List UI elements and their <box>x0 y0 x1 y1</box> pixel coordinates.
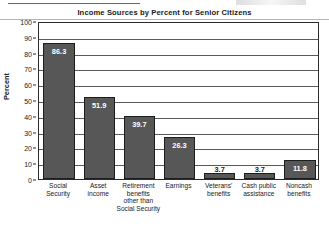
y-tick-mark <box>33 116 36 117</box>
x-axis-category-labels: SocialSecurityAssetincomeRetirementbenef… <box>38 182 319 232</box>
y-tick-mark <box>33 37 36 38</box>
y-axis-tick-labels: 1009080706050403020100 <box>10 22 36 180</box>
chart-title: Income Sources by Percent for Senior Cit… <box>0 8 329 17</box>
x-category-line: benefits <box>275 190 323 198</box>
y-tick-label: 70 <box>24 66 32 73</box>
y-tick-mark <box>33 148 36 149</box>
y-tick-label: 90 <box>24 34 32 41</box>
x-category-label: Noncashbenefits <box>275 182 323 197</box>
y-tick-mark <box>33 22 36 23</box>
y-tick-mark <box>33 180 36 181</box>
gridline <box>39 70 318 71</box>
scan-artifact-line <box>8 3 140 4</box>
scan-artifact-rule <box>0 19 329 20</box>
y-tick-mark <box>33 85 36 86</box>
bar-chart-figure: Income Sources by Percent for Senior Cit… <box>0 0 329 232</box>
bar-value-label: 39.7 <box>124 120 155 129</box>
y-tick-label: 20 <box>24 145 32 152</box>
x-category-line: other than <box>114 197 162 205</box>
y-tick-mark <box>33 53 36 54</box>
scan-artifact-smudge <box>236 0 306 5</box>
y-tick-mark <box>33 101 36 102</box>
y-tick-label: 50 <box>24 98 32 105</box>
y-tick-mark <box>33 132 36 133</box>
gridline <box>39 39 318 40</box>
gridline <box>39 86 318 87</box>
bar-value-label: 3.7 <box>244 165 275 174</box>
gridline <box>39 55 318 56</box>
y-tick-label: 100 <box>20 19 32 26</box>
gridline <box>39 102 318 103</box>
bar <box>43 43 74 179</box>
bar-value-label: 51.9 <box>84 101 115 110</box>
y-tick-mark <box>33 69 36 70</box>
y-tick-label: 60 <box>24 82 32 89</box>
bar-value-label: 11.8 <box>284 164 315 173</box>
x-category-line: Noncash <box>275 182 323 190</box>
plot-area: 86.351.939.726.33.73.711.8 <box>38 22 319 180</box>
y-tick-label: 0 <box>28 177 32 184</box>
y-tick-label: 30 <box>24 129 32 136</box>
y-tick-mark <box>33 164 36 165</box>
bar-value-label: 26.3 <box>164 141 195 150</box>
x-category-line: benefits <box>114 190 162 198</box>
bar-value-label: 3.7 <box>204 165 235 174</box>
x-category-line: Social Security <box>114 205 162 213</box>
gridline <box>39 134 318 135</box>
y-tick-label: 80 <box>24 50 32 57</box>
bar-value-label: 86.3 <box>43 47 74 56</box>
y-tick-label: 10 <box>24 161 32 168</box>
y-tick-label: 40 <box>24 113 32 120</box>
gridline <box>39 118 318 119</box>
